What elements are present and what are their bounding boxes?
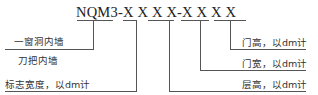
leader-floor-v [200,20,201,71]
leader-door-h [230,49,306,50]
underline-floor-height [181,20,209,21]
underline-width [148,20,174,21]
leader-prefix-v [93,20,94,49]
model-code: NQM3-X X X X-X X X X [76,4,236,21]
label-mark-width: 标志宽度，以dm计 [5,77,90,91]
leader-floor-h [200,70,306,71]
leader-width-h [169,91,306,92]
leader-width-v [169,20,170,92]
underline-type [123,20,137,21]
label-door-width: 门宽，以dm计 [242,56,307,70]
leader-type-v [136,20,137,91]
label-floor-height: 层高，以dm计 [242,77,307,91]
label-knife-wall: 刀把内墙 [18,53,58,67]
label-door-height: 门高，以dm计 [242,35,307,49]
label-window-wall: 一窗洞内墙 [14,34,64,48]
leader-type-h [5,91,137,92]
leader-prefix-h [5,49,94,50]
leader-door-v [230,20,231,50]
underline-prefix [77,20,113,21]
